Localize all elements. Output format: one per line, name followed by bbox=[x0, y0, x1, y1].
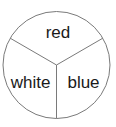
sector-label-top: red bbox=[46, 23, 71, 42]
divider-line-upper-left bbox=[10, 38, 56, 65]
three-sector-circle-diagram: red white blue bbox=[0, 0, 116, 127]
divider-line-upper-right bbox=[57, 38, 103, 65]
sector-label-bottom-right: blue bbox=[67, 73, 99, 92]
sector-label-bottom-left: white bbox=[10, 73, 51, 92]
